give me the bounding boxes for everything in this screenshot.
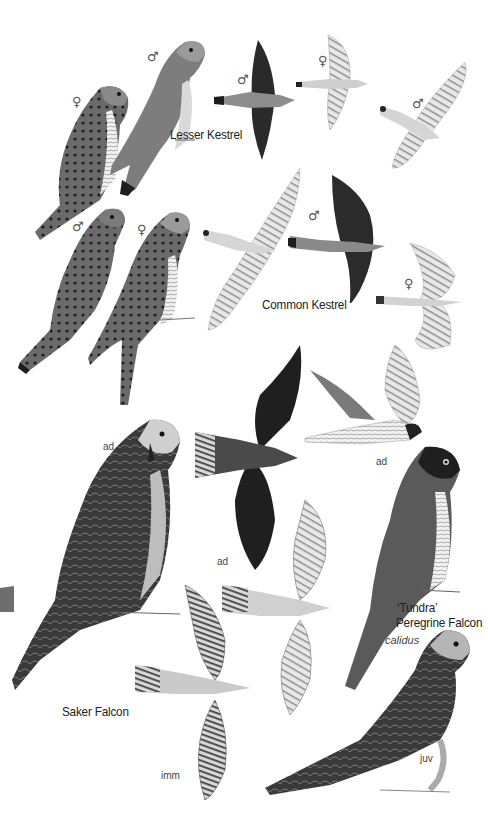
saker-falcon-flight-ventral — [222, 500, 330, 715]
age-label-juv: juv — [420, 753, 433, 764]
sex-symbol-male: ♂ — [412, 96, 424, 111]
species-label-peregrine-falcon: Peregrine Falcon — [396, 615, 482, 630]
age-label-ad: ad — [376, 456, 387, 467]
lesser-kestrel-female-flight-ventral — [296, 35, 368, 130]
species-label-lesser-kestrel: Lesser Kestrel — [170, 127, 242, 142]
common-kestrel-female-flight-ventral — [376, 243, 462, 349]
saker-falcon-adult-perched — [0, 420, 180, 690]
lesser-kestrel-male-flight-ventral — [380, 62, 466, 168]
field-guide-plate: ♀ ♂ ♂ ♀ ♂ Lesser Kestrel ♂ ♀ ♂ ♀ Common … — [0, 0, 488, 814]
species-label-tundra: ‘Tundra’ — [397, 600, 437, 615]
sex-symbol-female: ♀ — [137, 222, 147, 237]
sex-symbol-male: ♂ — [308, 208, 320, 223]
scientific-name-calidus: calidus — [385, 634, 419, 646]
saker-falcon-adult-flight-dorsal — [195, 345, 301, 570]
saker-falcon-imm-flight-ventral — [135, 585, 250, 800]
lesser-kestrel-male-perched — [110, 41, 205, 196]
common-kestrel-male-flight-dorsal — [288, 175, 385, 303]
age-label-ad: ad — [217, 556, 228, 567]
species-label-common-kestrel: Common Kestrel — [262, 297, 347, 312]
lesser-kestrel-male-flight-dorsal — [214, 40, 295, 160]
sex-symbol-male: ♂ — [147, 49, 159, 64]
age-label-imm: imm — [161, 770, 180, 781]
sex-symbol-male: ♂ — [237, 72, 249, 87]
species-label-saker-falcon: Saker Falcon — [62, 704, 129, 719]
sex-symbol-female: ♀ — [318, 53, 328, 68]
peregrine-adult-flight-side — [305, 345, 422, 444]
sex-symbol-male: ♂ — [72, 219, 84, 234]
sex-symbol-female: ♀ — [404, 276, 414, 291]
bird-illustrations — [0, 0, 488, 814]
age-label-ad: ad — [103, 441, 114, 452]
sex-symbol-female: ♀ — [72, 94, 82, 109]
